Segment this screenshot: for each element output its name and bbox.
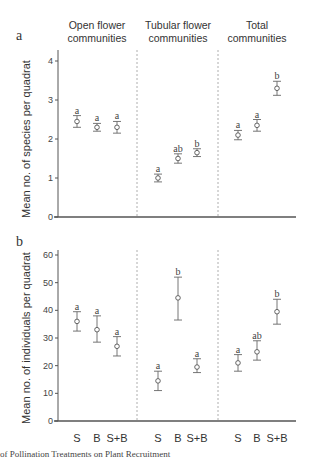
data-point: a [234,119,242,139]
data-point: b [273,70,281,95]
significance-letter: ab [173,143,182,154]
significance-letter: a [115,326,120,337]
significance-letter: b [275,288,280,299]
mean-marker [75,319,80,324]
significance-letter: a [255,109,260,120]
panel-label-b: b [16,234,23,249]
data-point: a [154,163,162,182]
significance-letter: b [195,138,200,149]
header-open-line2: communities [68,32,127,44]
x-category-label: S+B [106,432,127,444]
mean-marker [255,123,260,128]
data-point: ab [173,143,182,163]
significance-letter: a [156,163,161,174]
significance-letter: a [236,344,241,355]
data-point: a [154,360,162,390]
significance-letter: a [195,348,200,359]
data-point: a [73,105,81,128]
mean-marker [95,125,100,130]
x-category-label: B [174,432,181,444]
panel-label-a: a [16,28,23,43]
data-point: b [174,266,182,320]
data-point: b [193,138,201,157]
x-category-label: S+B [186,432,207,444]
data-point: a [234,344,242,372]
mean-marker [75,119,80,124]
mean-marker [156,379,161,384]
column-headers: Open flower communities Tubular flower c… [68,19,287,44]
x-category-label: S [234,432,241,444]
significance-letter: a [95,305,100,316]
y-tick-label: 50 [43,278,53,288]
y-tick-label: 10 [43,388,53,398]
significance-letter: a [95,112,100,123]
mean-marker [156,176,161,181]
mean-marker [195,150,200,155]
data-point: a [253,109,261,132]
caption-fragment: of Pollination Treatments on Plant Recru… [0,449,171,459]
panel-b-plot: 0102030405060aaaabaaabb [43,250,296,426]
mean-marker [176,156,181,161]
y-tick-label: 2 [48,134,53,144]
y-axis-label-a: Mean no. of species per quadrat [20,60,32,218]
y-tick-label: 4 [48,56,53,66]
mean-marker [176,296,181,301]
data-point: a [93,305,101,342]
significance-letter: b [176,266,181,277]
x-category-label: B [253,432,260,444]
data-point: a [73,301,81,331]
mean-marker [275,309,280,314]
y-tick-label: 60 [43,250,53,260]
panel-a-plot: 01234aaaaabbaab [48,50,296,222]
data-point: b [273,288,281,324]
header-total-line2: communities [228,32,287,44]
y-tick-label: 0 [48,212,53,222]
mean-marker [195,365,200,370]
data-point: a [113,326,121,356]
y-tick-label: 1 [48,173,53,183]
mean-marker [236,133,241,138]
y-tick-label: 0 [48,416,53,426]
mean-marker [275,86,280,91]
y-tick-label: 3 [48,95,53,105]
header-total-line1: Total [246,19,268,31]
x-category-label: S+B [266,432,287,444]
header-tubular-line1: Tubular flower [145,19,212,31]
y-tick-label: 40 [43,305,53,315]
mean-marker [115,344,120,349]
x-category-label: S [154,432,161,444]
significance-letter: a [75,301,80,312]
data-point: ab [252,330,261,360]
significance-letter: a [236,119,241,130]
mean-marker [236,361,241,366]
significance-letter: b [275,70,280,81]
y-tick-label: 20 [43,361,53,371]
figure-canvas: Open flower communities Tubular flower c… [0,0,311,459]
x-category-label: B [93,432,100,444]
data-point: a [93,112,101,131]
mean-marker [255,350,260,355]
significance-letter: ab [252,330,261,341]
y-axis-label-b: Mean no. of individuals per quadrat [20,252,32,424]
x-axis-category-labels: SBS+BSBS+BSBS+B [73,432,287,444]
y-tick-label: 30 [43,333,53,343]
mean-marker [95,327,100,332]
data-point: a [193,348,201,373]
x-category-label: S [73,432,80,444]
data-point: a [113,110,121,133]
header-tubular-line2: communities [149,32,208,44]
significance-letter: a [75,105,80,116]
significance-letter: a [156,360,161,371]
significance-letter: a [115,110,120,121]
mean-marker [115,125,120,130]
header-open-line1: Open flower [69,19,126,31]
